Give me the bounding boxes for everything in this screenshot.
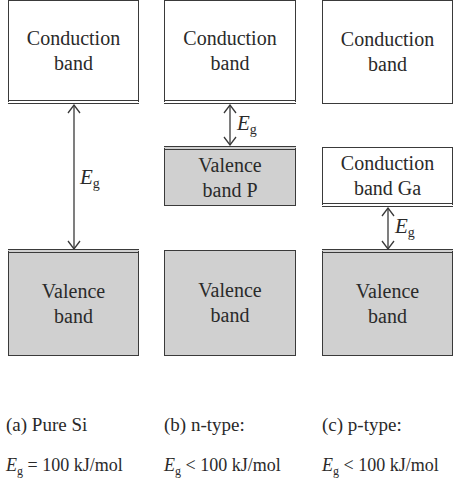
panel-b-dopant-label-1: Valence: [198, 153, 261, 178]
energy-relation: < 100 kJ/mol: [339, 455, 439, 475]
gap-letter: E: [237, 111, 250, 135]
panel-b-conduction-band: Conduction band: [164, 0, 296, 104]
panel-b-caption-line-1: (b) n-type:: [164, 413, 259, 436]
energy-symbol: E: [164, 455, 175, 475]
panel-b-valence-label-2: band: [211, 303, 250, 328]
energy-relation: = 100 kJ/mol: [23, 455, 123, 475]
panel-c-conduction-band-ga: Conduction band Ga: [322, 147, 453, 207]
gap-subscript: g: [408, 225, 415, 240]
panel-c-valence-label-2: band: [368, 304, 407, 329]
panel-a-conduction-label-1: Conduction: [27, 26, 120, 51]
panel-a-energy-value: Eg = 100 kJ/mol: [6, 455, 123, 479]
panel-b-energy-value: Eg < 100 kJ/mol: [164, 455, 281, 479]
panel-a-conduction-band: Conduction band: [8, 0, 139, 104]
panel-c-caption-line-1: (c) p-type:: [322, 413, 417, 436]
gap-subscript: g: [93, 176, 100, 191]
panel-c-valence-label-1: Valence: [356, 279, 419, 304]
panel-b-valence-band: Valence band: [164, 250, 296, 356]
panel-c-dopant-label-1: Conduction: [341, 151, 434, 176]
panel-a-valence-label-1: Valence: [42, 279, 105, 304]
panel-b-conduction-label-2: band: [211, 51, 250, 76]
energy-symbol: E: [322, 455, 333, 475]
energy-symbol: E: [6, 455, 17, 475]
panel-b-valence-label-1: Valence: [198, 278, 261, 303]
panel-b-gap-arrow-icon: [222, 104, 238, 146]
gap-letter: E: [80, 165, 93, 189]
panel-a-valence-label-2: band: [54, 304, 93, 329]
panel-b-dopant-label-2: band P: [203, 178, 258, 203]
panel-c-valence-band: Valence band: [322, 249, 453, 356]
panel-b-gap-label: Eg: [237, 111, 257, 138]
panel-c-conduction-band: Conduction band: [322, 0, 453, 104]
panel-b-conduction-label-1: Conduction: [183, 26, 276, 51]
panel-a-caption: (a) Pure Si: [6, 367, 87, 459]
panel-a-gap-label: Eg: [80, 165, 100, 192]
panel-c-energy-value: Eg < 100 kJ/mol: [322, 455, 439, 479]
panel-c-dopant-label-2: band Ga: [354, 176, 421, 201]
panel-c-conduction-label-1: Conduction: [341, 27, 434, 52]
panel-c-conduction-label-2: band: [368, 52, 407, 77]
panel-a-valence-band: Valence band: [8, 249, 139, 356]
panel-c-gap-label: Eg: [395, 214, 415, 241]
gap-subscript: g: [250, 122, 257, 137]
panel-a-caption-line-1: (a) Pure Si: [6, 413, 87, 436]
energy-relation: < 100 kJ/mol: [181, 455, 281, 475]
panel-c-gap-arrow-icon: [380, 207, 396, 250]
gap-letter: E: [395, 214, 408, 238]
panel-b-valence-band-p: Valence band P: [164, 146, 296, 206]
panel-a-conduction-label-2: band: [54, 51, 93, 76]
